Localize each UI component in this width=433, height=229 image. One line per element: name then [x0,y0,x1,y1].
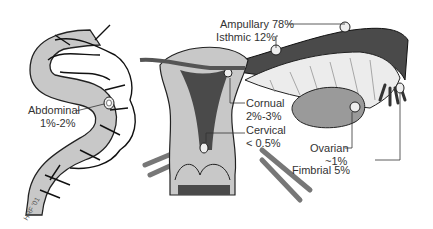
label-fimbrial: Fimbrial 5% [292,164,350,176]
label-ovarian: Ovarian [310,142,349,154]
label-ampullary: Ampullary 78% [220,18,286,30]
label-cervical-pct: < 0.5% [246,137,281,149]
label-cornual-pct: 2%-3% [246,110,281,122]
label-isthmic: Isthmic 12% [210,31,276,43]
label-cervical: Cervical [246,124,286,136]
ectopic-pregnancy-diagram: Ampullary 78% Isthmic 12% Abdominal 1%-2… [0,0,433,229]
label-abdominal-pct: 1%-2% [40,117,75,129]
label-cornual: Cornual [246,97,285,109]
label-abdominal: Abdominal [28,104,80,116]
